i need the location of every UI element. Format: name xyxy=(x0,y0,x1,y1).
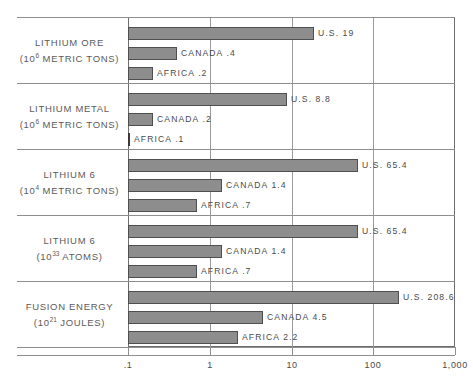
bar-canada xyxy=(128,245,222,258)
bar-value-label: U.S. 65.4 xyxy=(362,225,408,238)
group-label-line2: (104 METRIC TONS) xyxy=(17,181,122,197)
group-label: FUSION ENERGY(1021 JOULES) xyxy=(17,300,122,329)
bar-value-label: AFRICA 2.2 xyxy=(242,331,298,344)
bar-africa xyxy=(128,331,238,344)
bar-value-label: U.S. 208.6 xyxy=(403,291,455,304)
bar-value-label: AFRICA .2 xyxy=(157,67,208,80)
group-label: LITHIUM ORE(106 METRIC TONS) xyxy=(17,36,122,65)
group-label-exponent: 6 xyxy=(36,52,40,59)
bar-canada xyxy=(128,311,263,324)
bar-africa xyxy=(128,67,153,80)
bar-us xyxy=(128,27,314,40)
group-separator-bottom xyxy=(17,347,455,348)
group-label: LITHIUM 6(1033 ATOMS) xyxy=(17,234,122,263)
bar-africa xyxy=(128,265,197,278)
group-separator xyxy=(17,83,455,84)
bar-value-label: CANADA .2 xyxy=(157,113,212,126)
x-tick xyxy=(373,347,374,355)
x-axis-line xyxy=(17,355,455,356)
bar-value-label: AFRICA .7 xyxy=(201,265,252,278)
bar-value-label: AFRICA .7 xyxy=(201,199,252,212)
bar-us xyxy=(128,291,399,304)
group-label-exponent: 33 xyxy=(52,250,59,257)
bar-us xyxy=(128,93,287,106)
group-label-line2: (106 METRIC TONS) xyxy=(17,49,122,65)
group-label-line1: LITHIUM 6 xyxy=(43,235,95,246)
group-label-line2: (1033 ATOMS) xyxy=(17,247,122,263)
bar-value-label: AFRICA .1 xyxy=(134,133,185,146)
bar-canada xyxy=(128,179,222,192)
group-separator-top xyxy=(17,17,455,18)
bar-value-label: CANADA .4 xyxy=(181,47,236,60)
group-label-exponent: 6 xyxy=(36,118,40,125)
bar-canada xyxy=(128,113,153,126)
group-separator xyxy=(17,149,455,150)
bar-africa xyxy=(128,133,130,146)
group-label-line1: LITHIUM METAL xyxy=(29,103,110,114)
x-tick-label: .1 xyxy=(124,360,133,370)
bar-value-label: CANADA 1.4 xyxy=(226,179,287,192)
x-tick-label: 1,000 xyxy=(442,360,468,370)
x-tick-label: 1 xyxy=(207,360,213,370)
group-label-line1: LITHIUM ORE xyxy=(35,37,104,48)
bar-value-label: U.S. 19 xyxy=(318,27,354,40)
group-label: LITHIUM METAL(106 METRIC TONS) xyxy=(17,102,122,131)
group-label-line2: (1021 JOULES) xyxy=(17,313,122,329)
group-separator xyxy=(17,215,455,216)
bar-canada xyxy=(128,47,177,60)
x-tick xyxy=(455,347,456,355)
x-tick xyxy=(128,347,129,355)
group-label-exponent: 21 xyxy=(50,316,57,323)
log-bar-chart: .11101001,000LITHIUM ORE(106 METRIC TONS… xyxy=(0,0,473,389)
bar-value-label: CANADA 1.4 xyxy=(226,245,287,258)
bar-value-label: CANADA 4.5 xyxy=(267,311,328,324)
x-tick xyxy=(292,347,293,355)
group-separator xyxy=(17,281,455,282)
x-tick xyxy=(210,347,211,355)
x-tick-label: 100 xyxy=(365,360,382,370)
group-label-line1: FUSION ENERGY xyxy=(26,301,114,312)
group-label-line2: (106 METRIC TONS) xyxy=(17,115,122,131)
bar-us xyxy=(128,159,358,172)
x-tick-label: 10 xyxy=(286,360,297,370)
bar-us xyxy=(128,225,358,238)
bar-value-label: U.S. 65.4 xyxy=(362,159,408,172)
bar-africa xyxy=(128,199,197,212)
group-label-exponent: 4 xyxy=(36,184,40,191)
group-label-line1: LITHIUM 6 xyxy=(43,169,95,180)
group-label: LITHIUM 6(104 METRIC TONS) xyxy=(17,168,122,197)
bar-value-label: U.S. 8.8 xyxy=(291,93,331,106)
